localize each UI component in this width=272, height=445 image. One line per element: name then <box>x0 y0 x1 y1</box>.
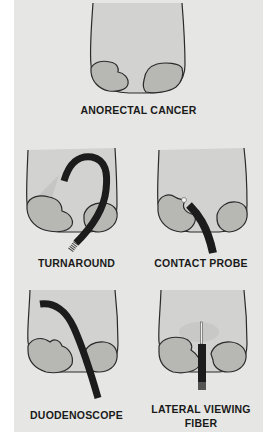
caption-contact-probe: CONTACT PROBE <box>139 257 263 269</box>
caption-duodenoscope: DUODENOSCOPE <box>14 409 139 421</box>
panel-lateral-viewing-fiber: LATERAL VIEWING FIBER <box>139 290 263 432</box>
figure-panel: ANORECTAL CANCER TURNAROUND CONTACT PROB… <box>14 0 263 432</box>
caption-anorectal-cancer: ANORECTAL CANCER <box>14 104 263 116</box>
contact-probe-illustration <box>139 145 263 270</box>
panel-duodenoscope: DUODENOSCOPE <box>14 290 139 432</box>
panel-anorectal-cancer: ANORECTAL CANCER <box>14 0 263 130</box>
turnaround-illustration <box>14 145 139 270</box>
caption-turnaround: TURNAROUND <box>14 257 139 269</box>
caption-lateral-viewing-fiber-line1: LATERAL VIEWING <box>139 403 263 415</box>
caption-lateral-viewing-fiber-line2: FIBER <box>139 417 263 429</box>
panel-turnaround: TURNAROUND <box>14 145 139 270</box>
panel-contact-probe: CONTACT PROBE <box>139 145 263 270</box>
